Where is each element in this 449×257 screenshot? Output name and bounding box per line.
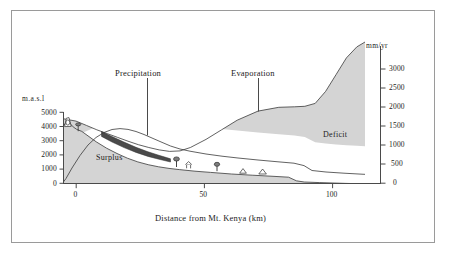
left-axis (60, 112, 64, 184)
left-axis-tick-2000: 2000 (35, 151, 57, 159)
right-axis-tick-500: 500 (391, 160, 403, 168)
x-axis-tick-50: 50 (200, 191, 208, 199)
water-balance-figure: m.a.s.l 5000 4000 3000 2000 1000 0 mm/yr… (0, 0, 449, 257)
x-axis-tick-100: 100 (326, 191, 337, 199)
left-axis-tick-1000: 1000 (35, 165, 57, 173)
left-axis-tick-5000: 5000 (35, 109, 57, 117)
right-axis-tick-2000: 2000 (389, 103, 405, 111)
right-axis-tick-2500: 2500 (389, 84, 405, 92)
x-axis-tick-0: 0 (74, 191, 78, 199)
bottom-axis (63, 184, 381, 189)
surplus-region-label: Surplus (96, 154, 123, 162)
left-axis-unit-label: m.a.s.l (22, 95, 45, 103)
left-axis-tick-4000: 4000 (35, 123, 57, 131)
left-axis-tick-3000: 3000 (35, 137, 57, 145)
left-axis-tick-0: 0 (35, 180, 57, 188)
right-axis-tick-1500: 1500 (389, 122, 405, 130)
right-axis-tick-1000: 1000 (389, 141, 405, 149)
precipitation-callout-label: Precipitation (115, 69, 161, 78)
right-axis (381, 46, 386, 184)
deficit-region-label: Deficit (323, 131, 347, 139)
right-axis-tick-0: 0 (393, 179, 397, 187)
right-axis-unit-label: mm/yr (366, 42, 388, 50)
x-axis-title: Distance from Mt. Kenya (km) (155, 214, 266, 223)
right-axis-tick-3000: 3000 (389, 65, 405, 73)
evaporation-callout-label: Evaporation (231, 69, 275, 78)
